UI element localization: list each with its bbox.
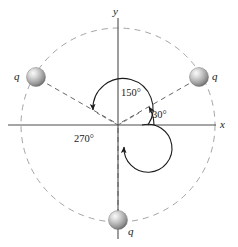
- inner-stub-30: [118, 113, 139, 125]
- inner-stub-150: [97, 113, 118, 125]
- figure-canvas: [0, 0, 238, 247]
- angle-arc-270: [124, 124, 172, 172]
- charge-label-left: q: [14, 71, 20, 82]
- charge-sphere-150: [27, 68, 46, 87]
- y-axis-label: y: [113, 6, 118, 17]
- angle-arc-150: [93, 78, 153, 125]
- charge-label-right: q: [212, 71, 218, 82]
- radius-line-150: [44, 82, 114, 122]
- physics-figure-three-charges: y x q q q 150° 30° 270°: [0, 0, 238, 247]
- charge-sphere-270: [109, 211, 128, 230]
- charge-label-bottom: q: [128, 226, 134, 237]
- angle-label-270: 270°: [74, 134, 94, 145]
- x-axis-label: x: [220, 119, 225, 130]
- charge-sphere-30: [190, 68, 209, 87]
- angle-label-150: 150°: [121, 88, 141, 99]
- angle-label-30: 30°: [152, 110, 167, 121]
